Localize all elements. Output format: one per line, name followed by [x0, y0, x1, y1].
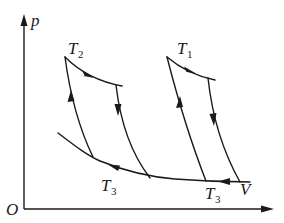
right-cycle [167, 57, 240, 182]
label-t3-right: T 3 [205, 184, 221, 205]
t3-right-arrow-icon [218, 178, 230, 185]
svg-text:3: 3 [215, 193, 221, 205]
isotherm-t1 [167, 57, 215, 80]
svg-text:1: 1 [187, 48, 193, 60]
x-axis-label: V [240, 180, 253, 199]
left-cycle [65, 57, 150, 178]
y-axis-label: p [30, 11, 40, 30]
label-t3-left: T 3 [101, 176, 117, 197]
origin-label: O [6, 200, 18, 219]
t2-arrow-icon [79, 71, 94, 79]
label-t1: T 1 [177, 39, 193, 60]
right-rising-arrow-icon [176, 96, 183, 108]
t3-left-arrow-icon [108, 165, 120, 172]
right-cycle-falling-line [208, 78, 240, 182]
label-t2: T 2 [68, 39, 84, 60]
left-cycle-falling-line [116, 85, 150, 178]
isotherm-t2 [65, 57, 122, 86]
svg-text:2: 2 [78, 48, 84, 60]
axes [21, 14, 275, 213]
svg-text:3: 3 [111, 185, 117, 197]
left-rising-arrow-icon [68, 90, 75, 102]
pv-diagram: p V O T 2 T 1 T 3 T 3 [0, 0, 284, 223]
y-axis-arrow-icon [21, 14, 28, 26]
x-axis-arrow-icon [261, 206, 274, 213]
